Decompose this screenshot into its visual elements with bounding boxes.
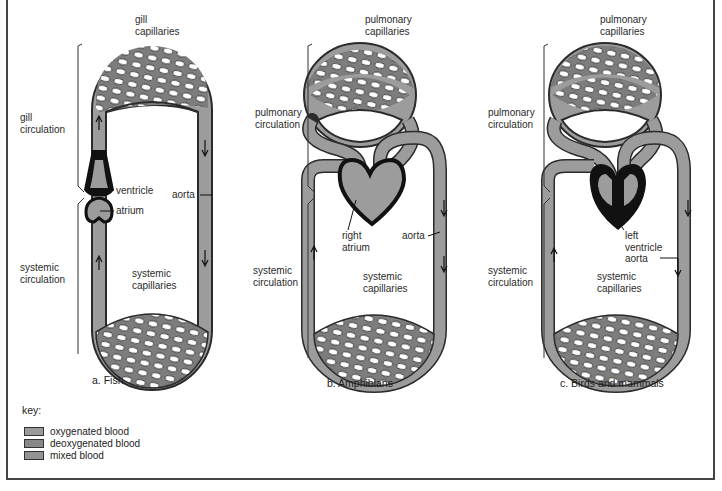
amphibian-circulation-diagram [304, 43, 447, 386]
amphibian-heart-icon [340, 160, 404, 224]
deoxygenated-swatch-icon [24, 439, 44, 448]
fish-atrium-icon [86, 198, 112, 222]
fish-gill-capillaries-label: gill capillaries [135, 14, 179, 38]
mammal-systemic-circulation-label: systemic circulation [488, 265, 533, 289]
mammal-systemic-capillaries-label: systemic capillaries [597, 271, 641, 295]
fish-caption: a. Fish [92, 374, 124, 386]
key-title: key: [22, 404, 41, 416]
key-item-mixed: mixed blood [24, 450, 104, 461]
fish-atrium-label: atrium [116, 205, 144, 217]
mammal-pulmonary-capillaries-label: pulmonary capillaries [600, 14, 647, 38]
oxygenated-swatch-icon [24, 427, 44, 436]
amphibian-right-atrium-label: right atrium [342, 230, 370, 254]
amphibian-pulmonary-circulation-label: pulmonary circulation [255, 107, 302, 131]
mixed-swatch-icon [24, 451, 44, 460]
mammal-left-ventricle-label: left ventricle [625, 230, 662, 254]
fish-bracket [78, 44, 84, 354]
amphibian-systemic-circulation-label: systemic circulation [253, 265, 298, 289]
key-label: deoxygenated blood [50, 438, 140, 449]
amphibian-pulmonary-capillaries-label: pulmonary capillaries [365, 14, 412, 38]
fish-systemic-circulation-label: systemic circulation [20, 262, 65, 286]
amphibian-systemic-capillaries-label: systemic capillaries [363, 271, 407, 295]
fish-aorta-label: aorta [172, 189, 195, 201]
key-item-deoxygenated: deoxygenated blood [24, 438, 140, 449]
mammal-circulation-diagram [544, 43, 691, 386]
amphibian-aorta-label: aorta [402, 230, 425, 242]
key-label: mixed blood [50, 450, 104, 461]
amphibian-caption: b. Amphibians [327, 377, 393, 389]
mammal-caption: c. Birds and mammals [560, 377, 664, 389]
fish-systemic-capillaries-label: systemic capillaries [132, 268, 176, 292]
mammal-pulmonary-circulation-label: pulmonary circulation [488, 107, 535, 131]
key-item-oxygenated: oxygenated blood [24, 426, 129, 437]
key-label: oxygenated blood [50, 426, 129, 437]
fish-ventricle-label: ventricle [116, 185, 153, 197]
mammal-heart-icon [590, 164, 646, 230]
fish-gill-circulation-label: gill circulation [20, 112, 65, 136]
fish-circulation-diagram [78, 44, 212, 390]
mammal-aorta-label: aorta [625, 253, 648, 265]
